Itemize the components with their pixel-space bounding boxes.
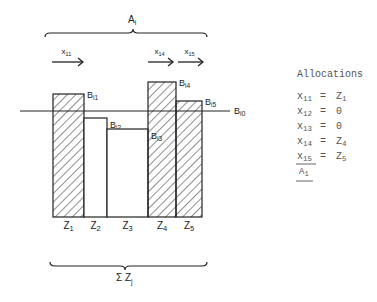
allocation-eq: = [320, 91, 326, 102]
allocations-panel: Allocations x11=Z1x12=0x13=0x14=Z4x15=Z5… [296, 69, 363, 181]
allocations-total: A1 [299, 167, 309, 178]
arrow-x11: x11 [52, 47, 83, 66]
allocation-eq: = [320, 151, 326, 162]
arrow-x15: x15 [178, 47, 203, 66]
allocation-row: x13=0 [297, 121, 342, 133]
bar-z-label: Z5 [184, 220, 194, 233]
top-brace: Ai [45, 14, 207, 37]
allocation-val: Z1 [336, 91, 347, 103]
allocation-var: x11 [297, 91, 313, 103]
bottom-brace-label: Σ Zj [116, 272, 133, 286]
top-brace-label: Ai [128, 14, 137, 26]
bar-z-label: Z4 [157, 220, 167, 233]
arrow-label: x15 [185, 47, 195, 57]
bar-b-label: Bi5 [205, 97, 216, 108]
allocation-val: 0 [336, 121, 342, 132]
bars: Bi1Z1Bi2Z2Bi3Z3Bi4Z4Bi5Z5 [53, 78, 216, 233]
allocation-var: x13 [297, 121, 313, 133]
bar-b-label: Bi4 [179, 78, 190, 89]
flow-arrows: x11x14x15 [52, 47, 203, 66]
allocation-row: x12=0 [297, 106, 342, 118]
bar-z-label: Z3 [123, 220, 133, 233]
baseline-label: Bi0 [234, 106, 246, 117]
bar-z-label: Z2 [91, 220, 101, 233]
allocation-val: 0 [336, 106, 342, 117]
allocation-row: x14=Z4 [297, 136, 347, 148]
allocation-row: x15=Z5 [296, 151, 347, 164]
bottom-brace: Σ Zj [50, 262, 207, 286]
allocations-title: Allocations [297, 69, 363, 80]
arrow-x14: x14 [148, 47, 173, 66]
allocation-eq: = [320, 136, 326, 147]
bar-5: Bi5Z5 [176, 97, 216, 233]
bar-b-label: Bi1 [87, 90, 98, 101]
arrow-label: x11 [62, 47, 72, 57]
allocation-val: Z5 [336, 151, 347, 163]
allocation-row: x11=Z1 [297, 91, 347, 103]
allocation-diagram: Ai x11x14x15 Bi1Z1Bi2Z2Bi3Z3Bi4Z4Bi5Z5 B… [0, 0, 377, 302]
allocation-var: x14 [297, 136, 313, 148]
bar-z-label: Z1 [64, 220, 74, 233]
arrow-label: x14 [155, 47, 165, 57]
allocation-eq: = [320, 106, 326, 117]
allocation-val: Z4 [336, 136, 347, 148]
allocation-eq: = [320, 121, 326, 132]
allocation-var: x15 [297, 151, 313, 163]
allocation-var: x12 [297, 106, 312, 118]
